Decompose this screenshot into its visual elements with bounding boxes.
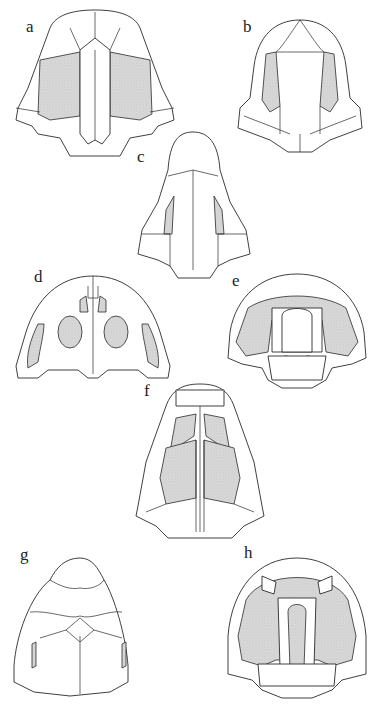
skull-illustration-g	[10, 556, 135, 706]
skull-illustration-c	[118, 130, 268, 280]
skull-illustration-h	[222, 556, 372, 701]
skull-illustration-d	[8, 274, 178, 384]
skull-illustration-e	[222, 272, 372, 392]
skull-illustration-f	[120, 382, 280, 547]
